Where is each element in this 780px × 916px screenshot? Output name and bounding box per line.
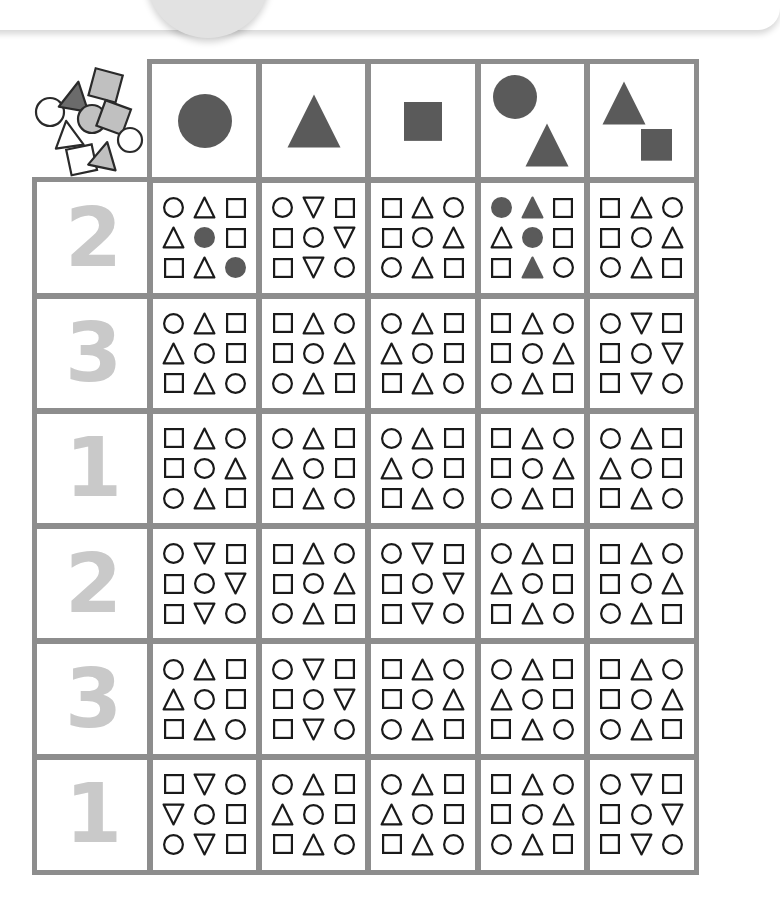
triangle-down-outline-icon xyxy=(626,830,656,859)
circle-outline-icon xyxy=(330,830,360,859)
circle-outline-icon xyxy=(377,770,407,799)
shape-cell[interactable] xyxy=(368,180,477,295)
circle-outline-icon xyxy=(377,253,407,282)
triangle-down-outline-icon xyxy=(657,339,687,368)
triangle-filled-icon xyxy=(517,193,547,222)
triangle-outline-icon xyxy=(626,424,656,453)
triangle-outline-icon xyxy=(190,193,220,222)
triangle-outline-icon xyxy=(408,484,438,513)
triangle-outline-icon xyxy=(330,569,360,598)
shape-cell[interactable] xyxy=(368,411,477,526)
row-number-label: 3 xyxy=(35,312,150,394)
triangle-down-outline-icon xyxy=(299,715,329,744)
shape-cell[interactable] xyxy=(259,526,368,641)
shape-cell[interactable] xyxy=(478,411,587,526)
square-outline-icon xyxy=(595,569,625,598)
circle-outline-icon xyxy=(268,770,298,799)
square-outline-icon xyxy=(221,800,251,829)
circle-outline-icon xyxy=(330,253,360,282)
shape-cell[interactable] xyxy=(368,757,477,872)
shape-cell[interactable] xyxy=(587,641,696,756)
table-row: 3 xyxy=(35,296,696,411)
shape-cell[interactable] xyxy=(587,296,696,411)
shape-cell[interactable] xyxy=(368,296,477,411)
square-outline-icon xyxy=(595,685,625,714)
square-outline-icon xyxy=(159,770,189,799)
shape-cell[interactable] xyxy=(259,411,368,526)
square-outline-icon xyxy=(439,424,469,453)
shape-cell[interactable] xyxy=(587,180,696,295)
worksheet-grid: 2 xyxy=(35,62,696,872)
circle-outline-icon xyxy=(548,309,578,338)
square-outline-icon xyxy=(221,223,251,252)
shape-cell[interactable] xyxy=(259,296,368,411)
shape-cell[interactable] xyxy=(150,296,259,411)
shape-cell[interactable] xyxy=(368,526,477,641)
mini-shape-grid xyxy=(150,655,259,744)
shape-cell[interactable] xyxy=(150,757,259,872)
square-outline-icon xyxy=(657,599,687,628)
triangle-down-outline-icon xyxy=(299,253,329,282)
square-outline-icon xyxy=(486,800,516,829)
triangle-outline-icon xyxy=(299,309,329,338)
square-outline-icon xyxy=(377,223,407,252)
shape-cell[interactable] xyxy=(368,641,477,756)
shape-cell[interactable] xyxy=(259,757,368,872)
shape-cell[interactable] xyxy=(259,180,368,295)
circle-outline-icon xyxy=(657,369,687,398)
row-number-label: 3 xyxy=(35,658,150,740)
mini-shape-grid xyxy=(478,424,587,513)
triangle-outline-icon xyxy=(486,685,516,714)
square-outline-icon xyxy=(657,309,687,338)
shape-cell[interactable] xyxy=(587,757,696,872)
triangle-down-outline-icon xyxy=(190,770,220,799)
square-outline-icon xyxy=(595,539,625,568)
triangle-outline-icon xyxy=(190,655,220,684)
shape-cell[interactable] xyxy=(587,526,696,641)
scattered-shapes-icon xyxy=(35,63,150,180)
column-header-col-circle-triangle[interactable] xyxy=(478,62,587,180)
triangle-outline-icon xyxy=(299,424,329,453)
shape-cell[interactable] xyxy=(150,411,259,526)
shape-cell[interactable] xyxy=(150,180,259,295)
square-outline-icon xyxy=(548,655,578,684)
mini-shape-grid xyxy=(259,193,368,282)
square-filled-icon xyxy=(641,129,673,161)
square-outline-icon xyxy=(221,193,251,222)
triangle-outline-icon xyxy=(626,253,656,282)
square-outline-icon xyxy=(595,339,625,368)
circle-outline-icon xyxy=(377,424,407,453)
triangle-down-outline-icon xyxy=(408,539,438,568)
circle-outline-icon xyxy=(299,339,329,368)
circle-outline-icon xyxy=(377,309,407,338)
circle-outline-icon xyxy=(548,253,578,282)
column-header-col-triangle[interactable] xyxy=(259,62,368,180)
shape-cell[interactable] xyxy=(478,180,587,295)
mini-shape-grid xyxy=(368,424,477,513)
square-outline-icon xyxy=(268,569,298,598)
column-header-col-triangle-square[interactable] xyxy=(587,62,696,180)
table-row: 2 xyxy=(35,180,696,295)
shape-cell[interactable] xyxy=(478,757,587,872)
column-header-col-circle[interactable] xyxy=(150,62,259,180)
square-outline-icon xyxy=(657,424,687,453)
shape-cell[interactable] xyxy=(259,641,368,756)
square-outline-icon xyxy=(221,484,251,513)
shape-cell[interactable] xyxy=(150,526,259,641)
triangle-outline-icon xyxy=(595,454,625,483)
circle-outline-icon xyxy=(439,193,469,222)
circle-filled-icon xyxy=(178,94,232,148)
circle-outline-icon xyxy=(299,569,329,598)
decorative-circle xyxy=(146,0,270,38)
circle-outline-icon xyxy=(548,599,578,628)
shape-cell[interactable] xyxy=(587,411,696,526)
circle-outline-icon xyxy=(221,715,251,744)
shape-cell[interactable] xyxy=(150,641,259,756)
square-outline-icon xyxy=(221,539,251,568)
shape-cell[interactable] xyxy=(478,526,587,641)
row-label-cell: 3 xyxy=(35,641,150,756)
shape-cell[interactable] xyxy=(478,641,587,756)
mini-shape-grid xyxy=(368,655,477,744)
column-header-col-square[interactable] xyxy=(368,62,477,180)
shape-cell[interactable] xyxy=(478,296,587,411)
